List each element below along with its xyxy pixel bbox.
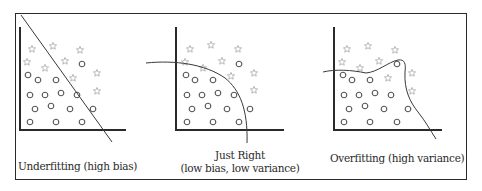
star-points [181, 41, 257, 93]
decision-boundary-wiggly [323, 60, 436, 139]
caption-underfitting: Underfitting (high bias) [18, 160, 137, 172]
decision-boundary-line [21, 15, 112, 142]
star-points [338, 42, 415, 94]
star-points [23, 42, 100, 94]
caption-overfitting: Overfitting (high variance) [330, 152, 464, 164]
panel-underfitting [19, 15, 126, 142]
caption-underfitting-text: Underfitting (high bias) [18, 160, 137, 172]
circle-points [183, 61, 253, 125]
caption-just-right-line2: (low bias, low variance) [170, 162, 310, 175]
caption-just-right: Just Right (low bias, low variance) [170, 149, 310, 175]
panel-overfitting [323, 27, 442, 139]
caption-just-right-line1: Just Right [170, 149, 310, 162]
panel-just-right [146, 27, 284, 143]
caption-overfitting-text: Overfitting (high variance) [330, 152, 464, 164]
